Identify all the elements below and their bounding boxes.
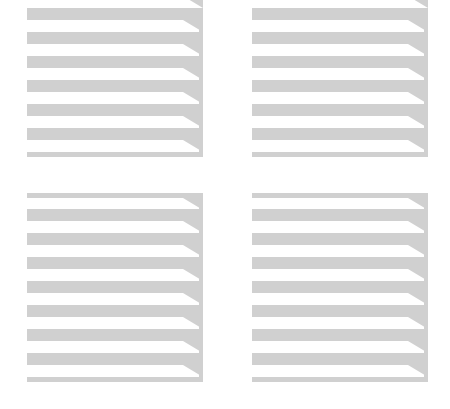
stripe: [27, 193, 203, 198]
stripe: [27, 281, 203, 293]
stripe: [252, 257, 428, 269]
edge-strip: [199, 198, 203, 210]
block-top-right: [252, 0, 428, 157]
stripe: [252, 305, 428, 317]
stripe: [27, 353, 203, 365]
stripe: [27, 8, 203, 20]
edge-strip: [199, 293, 203, 305]
edge-strip: [424, 68, 428, 80]
edge-strip: [424, 44, 428, 56]
stripe: [252, 80, 428, 92]
stripe: [252, 329, 428, 341]
edge-strip: [424, 269, 428, 281]
stripe: [27, 257, 203, 269]
stripe: [27, 305, 203, 317]
stripe: [27, 32, 203, 44]
stripe: [27, 128, 203, 140]
edge-strip: [424, 245, 428, 257]
stripe: [252, 209, 428, 221]
edge-strip: [424, 293, 428, 305]
block-top-left: [27, 0, 203, 157]
edge-strip: [424, 221, 428, 233]
edge-strip: [424, 341, 428, 353]
block-bottom-left: [27, 193, 203, 382]
block-bottom-right: [252, 193, 428, 382]
stripe: [252, 377, 428, 382]
edge-strip: [199, 68, 203, 80]
edge-strip: [424, 198, 428, 210]
edge-strip: [199, 140, 203, 152]
edge-strip: [199, 269, 203, 281]
stripe: [27, 104, 203, 116]
stripe-pattern-svg: [0, 0, 450, 409]
edge-strip: [199, 92, 203, 104]
edge-strip: [424, 140, 428, 152]
stripe: [27, 377, 203, 382]
edge-strip: [199, 116, 203, 128]
stripe: [27, 233, 203, 245]
edge-strip: [424, 20, 428, 32]
edge-strip: [199, 317, 203, 329]
stripe: [27, 209, 203, 221]
edge-strip: [424, 317, 428, 329]
stripe: [252, 32, 428, 44]
stripe: [252, 281, 428, 293]
edge-strip: [424, 365, 428, 377]
bevel-wedge: [183, 0, 203, 8]
stripe: [27, 56, 203, 68]
edge-strip: [424, 92, 428, 104]
stripe: [252, 128, 428, 140]
stripe: [252, 152, 428, 157]
striped-bevel-graphic: [0, 0, 450, 409]
edge-strip: [199, 44, 203, 56]
edge-strip: [199, 221, 203, 233]
edge-strip: [199, 20, 203, 32]
stripe: [27, 329, 203, 341]
stripe: [252, 56, 428, 68]
stripe: [252, 233, 428, 245]
edge-strip: [199, 245, 203, 257]
stripe: [252, 353, 428, 365]
edge-strip: [424, 116, 428, 128]
edge-strip: [199, 341, 203, 353]
stripe: [252, 193, 428, 198]
stripe: [27, 152, 203, 157]
edge-strip: [199, 365, 203, 377]
stripe: [252, 8, 428, 20]
stripe: [252, 104, 428, 116]
bevel-wedge: [408, 0, 428, 8]
stripe: [27, 80, 203, 92]
